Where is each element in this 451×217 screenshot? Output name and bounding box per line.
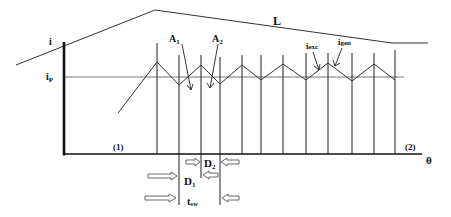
- D1-main: D: [184, 175, 192, 187]
- current-waveform: [118, 62, 395, 113]
- D1-label: D1: [184, 175, 196, 189]
- y-axis-label: i: [49, 36, 52, 47]
- D1-sub: 1: [192, 181, 196, 189]
- i-gen-arrow-icon: [333, 48, 342, 66]
- tsw-right-arrow-icon: [222, 194, 239, 202]
- A2-sub: 2: [219, 38, 223, 46]
- D2-main: D: [204, 157, 212, 169]
- D1-right-arrow-icon: [203, 171, 218, 179]
- A2-arrow-icon: [207, 44, 218, 88]
- i-gen-sub: gen: [341, 39, 352, 47]
- D2-sub: 2: [212, 163, 216, 171]
- D2-right-arrow-icon: [221, 158, 239, 166]
- D1-left-arrow-icon: [148, 172, 177, 180]
- switching-waveform-diagram: i iP θ L (1) (2) A1 A2 iexc igen D2 D1: [0, 0, 451, 217]
- tsw-sub: sw: [190, 200, 199, 208]
- region-1-label: (1): [113, 142, 124, 152]
- x-axis-label: θ: [426, 154, 432, 166]
- ip-label: iP: [46, 71, 54, 84]
- D2-left-arrow-icon: [186, 158, 200, 166]
- A1-arrow-icon: [182, 44, 193, 90]
- i-exc-sub: exc: [309, 43, 319, 51]
- A1-label: A1: [169, 33, 180, 46]
- D2-label: D2: [204, 157, 216, 171]
- envelope-label: L: [273, 14, 281, 28]
- i-exc-arrow-icon: [313, 52, 320, 70]
- i-exc-label: iexc: [306, 41, 318, 51]
- region-2-label: (2): [405, 142, 416, 152]
- ip-label-sub: P: [49, 76, 54, 84]
- tsw-left-arrow-icon: [145, 194, 176, 202]
- A1-sub: 1: [176, 38, 180, 46]
- tsw-label: tsw: [187, 196, 199, 208]
- i-gen-label: igen: [338, 37, 351, 47]
